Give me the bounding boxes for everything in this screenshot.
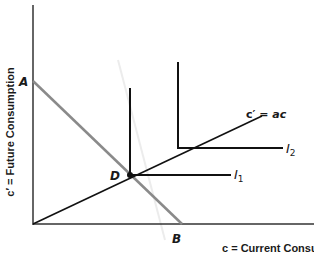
ray-label: c′ = ac [246, 108, 287, 121]
label-d: D [110, 169, 120, 183]
budget-line [33, 81, 182, 224]
x-axis-title: c = Current Consumption [222, 242, 314, 254]
point-d-marker [127, 172, 133, 178]
label-i2: I2 [286, 141, 296, 158]
indifference-curve-i2 [178, 62, 283, 148]
faint-guide-line [118, 60, 165, 240]
label-a: A [18, 75, 28, 89]
label-b: B [172, 232, 181, 246]
label-i1: I1 [234, 167, 244, 184]
consumption-diagram: A B D c′ = ac I1 I2 c = Current Consumpt… [0, 0, 314, 254]
ray-c-prime-equals-ac [33, 116, 262, 224]
y-axis-title: c′ = Future Consumption [4, 67, 16, 197]
